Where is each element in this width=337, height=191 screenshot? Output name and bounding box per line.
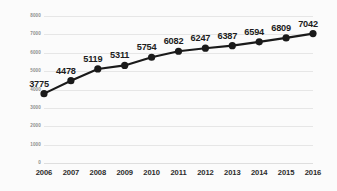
data-point-label: 6594: [244, 28, 264, 37]
data-point-label: 7042: [298, 19, 318, 28]
data-point-marker: [202, 45, 209, 52]
y-axis-tick-label: 6000: [1, 50, 41, 55]
y-axis: 010002000300040005000600070008000: [0, 16, 41, 163]
data-point-label: 6247: [191, 34, 211, 43]
y-axis-tick-label: 3000: [1, 106, 41, 111]
y-axis-tick-label: 0: [1, 161, 41, 166]
data-point-marker: [283, 34, 290, 41]
x-axis-tick-label: 2011: [170, 169, 186, 177]
y-axis-tick-label: 7000: [1, 32, 41, 37]
y-axis-tick-label: 1000: [1, 142, 41, 147]
data-point-label: 6082: [164, 37, 184, 46]
x-axis-tick-label: 2008: [90, 169, 107, 177]
data-point-label: 3775: [29, 79, 49, 88]
data-point-label: 5311: [110, 51, 129, 60]
data-point-marker: [148, 54, 155, 61]
data-point-label: 5754: [137, 43, 157, 52]
gridline: [44, 163, 313, 164]
data-point-label: 4478: [56, 67, 76, 76]
x-axis: 2006200720082009201020112012201320142015…: [44, 169, 313, 181]
y-axis-tick-label: 2000: [1, 124, 41, 129]
data-point-marker: [175, 48, 182, 55]
x-axis-tick-label: 2013: [224, 169, 241, 177]
y-axis-tick-label: 5000: [1, 69, 41, 74]
x-axis-tick-label: 2009: [116, 169, 133, 177]
data-point-marker: [40, 90, 47, 97]
x-axis-tick-label: 2007: [63, 169, 80, 177]
data-point-label: 6387: [217, 31, 237, 40]
x-axis-tick-label: 2012: [197, 169, 214, 177]
data-point-marker: [229, 42, 236, 49]
data-point-label: 5119: [83, 55, 102, 64]
data-point-marker: [67, 77, 74, 84]
data-point-marker: [309, 30, 316, 37]
x-axis-tick-label: 2006: [36, 169, 53, 177]
data-point-marker: [256, 38, 263, 45]
y-axis-tick-label: 8000: [1, 14, 41, 19]
x-axis-tick-label: 2015: [278, 169, 295, 177]
line-chart: 010002000300040005000600070008000 377544…: [0, 0, 337, 191]
x-axis-tick-label: 2016: [305, 169, 322, 177]
x-axis-tick-label: 2014: [251, 169, 268, 177]
data-point-label: 6809: [271, 24, 291, 33]
data-point-marker: [121, 62, 128, 69]
plot-area: 3775447851195311575460826247638765946809…: [44, 16, 313, 163]
x-axis-tick-label: 2010: [143, 169, 160, 177]
data-point-marker: [94, 65, 101, 72]
